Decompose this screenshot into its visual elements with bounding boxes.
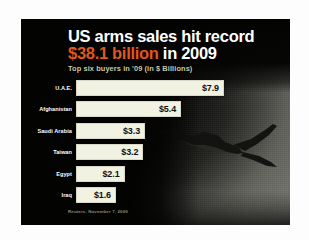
bar: $7.9 [76, 80, 224, 96]
bar-value-label: $7.9 [202, 83, 223, 93]
bar-value-label: $3.3 [123, 126, 144, 136]
bar-category-label: Saudi Arabia [21, 128, 76, 134]
infographic-screenshot: US arms sales hit record $38.1 billion i… [0, 0, 309, 240]
bar-value-label: $3.2 [121, 147, 142, 157]
bar-chart: U.A.E.$7.9Afghanistan$5.4Saudi Arabia$3.… [21, 77, 290, 206]
chart-row: Saudi Arabia$3.3 [21, 120, 290, 142]
headline-amount: $38.1 billion [68, 44, 159, 62]
bar: $3.2 [76, 144, 143, 160]
bar-wrapper: $3.3 [76, 123, 145, 139]
bar: $3.3 [76, 123, 145, 139]
bar-wrapper: $5.4 [76, 101, 181, 117]
chart-row: Egypt$2.1 [21, 163, 290, 185]
bar-wrapper: $3.2 [76, 144, 143, 160]
bar-category-label: U.A.E. [21, 85, 76, 91]
bar: $1.6 [76, 187, 116, 203]
bar: $2.1 [76, 166, 125, 182]
source-credit: Reuters, November 7, 2009 [68, 209, 128, 214]
bar-wrapper: $7.9 [76, 80, 224, 96]
headline-year: in 2009 [159, 44, 217, 62]
bar-category-label: Afghanistan [21, 106, 76, 112]
bar-category-label: Taiwan [21, 149, 76, 155]
bar-value-label: $2.1 [102, 169, 123, 179]
headline-line-2: $38.1 billion in 2009 [68, 45, 284, 63]
chart-subtitle: Top six buyers in '09 (in $ Billions) [68, 64, 192, 73]
headline-line-1: US arms sales hit record [68, 28, 284, 46]
infographic-content: US arms sales hit record $38.1 billion i… [21, 19, 290, 225]
chart-row: Iraq$1.6 [21, 185, 290, 207]
bar-category-label: Egypt [21, 171, 76, 177]
bar-category-label: Iraq [21, 192, 76, 198]
infographic-panel: US arms sales hit record $38.1 billion i… [21, 19, 290, 225]
bar-value-label: $1.6 [94, 190, 115, 200]
chart-row: Taiwan$3.2 [21, 142, 290, 164]
bar: $5.4 [76, 101, 181, 117]
chart-row: U.A.E.$7.9 [21, 77, 290, 99]
bar-value-label: $5.4 [159, 104, 180, 114]
bar-wrapper: $1.6 [76, 187, 116, 203]
bar-wrapper: $2.1 [76, 166, 125, 182]
chart-row: Afghanistan$5.4 [21, 99, 290, 121]
